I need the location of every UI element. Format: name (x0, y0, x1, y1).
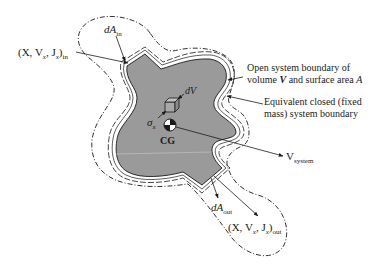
label-cg: CG (160, 135, 175, 146)
label-open-boundary-line2: volume V and surface area A (247, 74, 363, 85)
system-region (116, 54, 236, 185)
label-closed-boundary-line1: Equivalent closed (fixed (264, 96, 362, 108)
label-dA-in: dAin (104, 23, 122, 38)
center-of-gravity-icon (164, 119, 176, 131)
control-volume-diagram: dAin (X, Vx, Jx)in dV σx CG Open system … (0, 0, 383, 273)
volume-element-icon (165, 98, 179, 112)
label-inlet-properties: (X, Vx, Jx)in (18, 46, 68, 61)
label-closed-boundary-line2: mass) system boundary (264, 108, 358, 120)
label-open-boundary-line1: Open system boundary of (247, 62, 351, 73)
label-v-system: Vsystem (286, 150, 314, 165)
label-outlet-properties: (X, Vx, Jx)out (228, 221, 282, 236)
label-dV: dV (185, 85, 198, 96)
